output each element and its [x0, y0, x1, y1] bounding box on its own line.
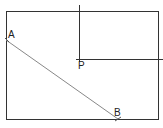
label-p: P: [78, 60, 85, 71]
diagram-canvas: A B P: [0, 0, 163, 128]
diagram-svg: A B P: [0, 0, 163, 128]
segment-ab: [6, 40, 118, 119]
label-a: A: [8, 29, 15, 40]
label-b: B: [114, 107, 121, 118]
